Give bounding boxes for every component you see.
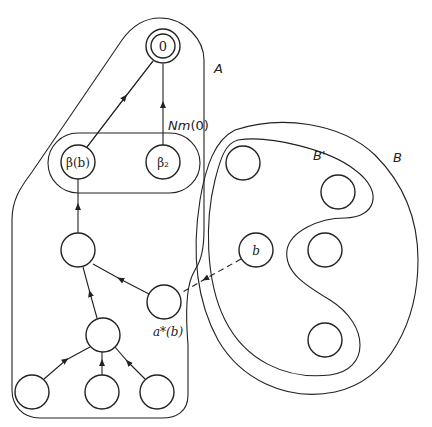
node-a-star-b-label: a*(b) bbox=[153, 325, 184, 339]
node-b-mid-right[interactable] bbox=[308, 233, 342, 267]
node-beta-2[interactable]: β₂ bbox=[146, 145, 180, 179]
svg-text:0: 0 bbox=[159, 39, 167, 54]
node-root[interactable]: 0 bbox=[146, 29, 180, 63]
node-leaf-1[interactable] bbox=[15, 375, 49, 409]
node-mid[interactable] bbox=[61, 233, 95, 267]
node-leaf-2[interactable] bbox=[85, 375, 119, 409]
region-b-label: B bbox=[393, 150, 402, 165]
node-low[interactable] bbox=[86, 318, 120, 352]
node-beta-b[interactable]: β(b) bbox=[61, 145, 95, 179]
node-b-top-left[interactable] bbox=[226, 146, 260, 180]
node-a-star-b[interactable] bbox=[147, 285, 181, 319]
region-nm0-label: Nm(0) bbox=[168, 118, 209, 133]
edge-beta-b-to-root-arrow bbox=[87, 61, 153, 147]
edge-leaf3-to-low bbox=[115, 347, 145, 379]
edge-low-to-mid bbox=[83, 267, 97, 318]
node-leaf-3[interactable] bbox=[140, 375, 174, 409]
region-bprime-label: B' bbox=[313, 148, 326, 163]
svg-text:b: b bbox=[252, 244, 260, 258]
svg-text:β₂: β₂ bbox=[157, 156, 169, 170]
svg-text:β(b): β(b) bbox=[66, 156, 90, 170]
edge-leaf1-to-low bbox=[44, 347, 90, 379]
edge-a-star-to-mid bbox=[93, 264, 149, 294]
node-b-top-right[interactable] bbox=[321, 175, 355, 209]
edge-b-to-a-star-dashed bbox=[181, 259, 241, 293]
diagram-canvas: A Nm(0) B B' 0 β(b) β₂ a*(b) bbox=[0, 0, 432, 427]
region-a-label: A bbox=[213, 61, 223, 76]
region-a-boundary bbox=[12, 18, 204, 418]
node-b-bottom[interactable] bbox=[308, 323, 342, 357]
node-b[interactable]: b bbox=[239, 233, 273, 267]
